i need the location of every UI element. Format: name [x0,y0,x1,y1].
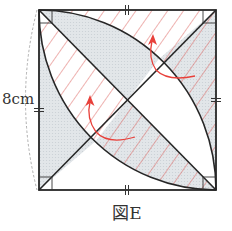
diagram-canvas: 8cm 図E [0,0,232,231]
figure-caption: 図E [112,203,141,223]
side-length-label: 8cm [2,90,34,108]
